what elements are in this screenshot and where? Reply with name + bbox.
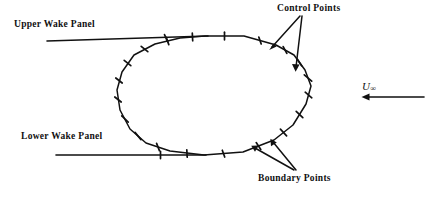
freestream-symbol: U — [362, 80, 370, 92]
control-points-callout-arrows — [269, 16, 302, 72]
label-control-points: Control Points — [277, 4, 340, 14]
label-freestream-velocity: U∞ — [362, 81, 376, 93]
label-upper-wake-panel: Upper Wake Panel — [14, 20, 95, 30]
body-polygon — [117, 36, 311, 155]
boundary-points-callout-arrows — [251, 139, 296, 170]
label-boundary-points: Boundary Points — [258, 174, 331, 184]
freestream-velocity-arrow — [362, 93, 425, 100]
control-point-ticks — [115, 32, 312, 157]
diagram-canvas: Upper Wake Panel Lower Wake Panel Contro… — [0, 0, 428, 200]
label-lower-wake-panel: Lower Wake Panel — [21, 132, 103, 142]
freestream-subscript: ∞ — [370, 84, 376, 93]
panel-method-figure — [0, 0, 428, 200]
